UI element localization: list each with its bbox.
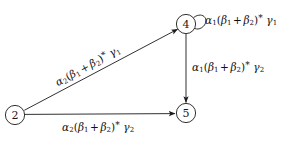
gamma-subscript: 2 <box>130 126 134 134</box>
edge-line-2-to-5 <box>25 114 175 115</box>
edge-line-2-to-4 <box>24 29 177 110</box>
node-5-label: 5 <box>183 107 190 120</box>
node-2-label: 2 <box>12 109 19 122</box>
node-5[interactable]: 5 <box>176 103 195 122</box>
beta1-subscript: 1 <box>227 19 231 27</box>
plus-symbol: + <box>219 61 231 73</box>
diagram-canvas: 2 4 5 α1(β1+β2)* γ1 α1(β1+β2)* γ2 α2(β1+… <box>0 0 296 142</box>
kleene-star: * <box>245 60 250 70</box>
beta1-subscript: 1 <box>214 66 218 74</box>
kleene-star: * <box>115 120 120 130</box>
plus-symbol: + <box>232 14 244 26</box>
edge-label-4-to-5: α1(β1+β2)* γ2 <box>192 60 264 74</box>
kleene-star: * <box>258 13 263 23</box>
node-4[interactable]: 4 <box>176 14 195 33</box>
edge-label-2-to-5: α2(β1+β2)* γ2 <box>62 120 134 134</box>
node-4-label: 4 <box>183 18 190 31</box>
gamma-subscript: 2 <box>260 66 264 74</box>
node-2[interactable]: 2 <box>5 105 24 124</box>
gamma-subscript: 1 <box>273 19 277 27</box>
edge-label-self-loop-4: α1(β1+β2)* γ1 <box>205 13 277 27</box>
beta1-subscript: 1 <box>84 126 88 134</box>
plus-symbol: + <box>89 121 101 133</box>
